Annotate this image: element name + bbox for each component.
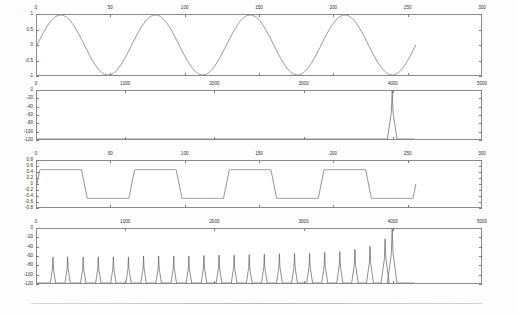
y-axis-tick-label: -80 [6, 121, 33, 126]
x-axis-tick-label: 300 [478, 6, 486, 11]
spectrum-trace [37, 91, 414, 139]
x-tick-mark-bottom [393, 137, 394, 140]
x-tick-mark-top [125, 90, 126, 93]
x-tick-mark-bottom [333, 205, 334, 208]
figure-canvas: 10.50-0.5-1 050100150200250300 0-20-40-6… [0, 0, 518, 315]
x-tick-mark-bottom [125, 137, 126, 140]
x-tick-mark-bottom [408, 205, 409, 208]
x-tick-mark-top [185, 160, 186, 163]
x-tick-mark-top [110, 14, 111, 17]
plot-3-svg [37, 161, 481, 207]
y-tick-mark [36, 202, 39, 203]
y-tick-mark-right [479, 256, 482, 257]
x-tick-mark-bottom [110, 205, 111, 208]
clipped-sine-curve [37, 170, 416, 199]
y-axis-tick-label: -80 [6, 263, 33, 268]
plot-area-2[interactable] [36, 90, 482, 140]
x-axis-tick-label: 5000 [477, 220, 487, 225]
y-axis-tick-label: 0.8 [6, 158, 33, 163]
y-tick-mark-right [479, 228, 482, 229]
x-tick-mark-bottom [393, 281, 394, 284]
x-tick-mark-top [333, 14, 334, 17]
x-axis-tick-label: 250 [404, 152, 412, 157]
x-tick-mark-bottom [110, 73, 111, 76]
y-tick-mark [36, 190, 39, 191]
y-axis-tick-label: -60 [6, 254, 33, 259]
y-axis-tick-label: -60 [6, 113, 33, 118]
y-tick-mark-right [479, 172, 482, 173]
y-tick-mark-right [479, 140, 482, 141]
y-axis-tick-label: 0.6 [6, 164, 33, 169]
y-tick-mark-right [479, 284, 482, 285]
sine-curve [37, 15, 416, 75]
y-tick-mark-right [479, 132, 482, 133]
x-axis-tick-label: 100 [181, 152, 189, 157]
y-axis-tick-label: 0 [6, 43, 33, 48]
y-tick-mark-right [479, 275, 482, 276]
x-tick-mark-top [304, 90, 305, 93]
x-axis-tick-label: 5000 [477, 82, 487, 87]
y-tick-mark [36, 45, 39, 46]
y-tick-mark [36, 107, 39, 108]
x-axis-tick-label: 100 [181, 6, 189, 11]
x-axis-tick-label: 1000 [120, 220, 130, 225]
y-tick-mark-right [479, 190, 482, 191]
footer-rule [30, 303, 482, 304]
y-tick-mark [36, 247, 39, 248]
x-tick-mark-bottom [185, 205, 186, 208]
y-tick-mark-right [479, 184, 482, 185]
y-tick-mark [36, 208, 39, 209]
y-tick-mark [36, 172, 39, 173]
x-tick-mark-bottom [214, 281, 215, 284]
y-tick-mark-right [479, 76, 482, 77]
x-tick-mark-top [408, 14, 409, 17]
y-axis-tick-label: -0.5 [6, 58, 33, 63]
x-axis-tick-label: 1000 [120, 82, 130, 87]
y-tick-mark [36, 123, 39, 124]
y-tick-mark [36, 61, 39, 62]
y-tick-mark-right [479, 208, 482, 209]
y-axis-tick-label: -0.2 [6, 188, 33, 193]
y-tick-mark [36, 160, 39, 161]
y-tick-mark-right [479, 237, 482, 238]
y-tick-mark [36, 14, 39, 15]
x-tick-mark-bottom [259, 205, 260, 208]
y-axis-tick-label: 0 [6, 226, 33, 231]
plot-area-3[interactable] [36, 160, 482, 208]
x-axis-tick-label: 200 [329, 152, 337, 157]
y-tick-mark [36, 76, 39, 77]
y-axis-tick-label: -120 [6, 282, 33, 287]
y-tick-mark [36, 237, 39, 238]
y-axis-tick-label: -20 [6, 96, 33, 101]
y-tick-mark [36, 30, 39, 31]
x-tick-mark-top [125, 228, 126, 231]
y-tick-mark-right [479, 123, 482, 124]
x-axis-tick-label: 0 [35, 152, 38, 157]
plot-area-1[interactable] [36, 14, 482, 76]
y-tick-mark [36, 115, 39, 116]
y-tick-mark-right [479, 166, 482, 167]
x-tick-mark-top [110, 160, 111, 163]
y-axis-tick-label: -0.8 [6, 206, 33, 211]
x-axis-tick-label: 200 [329, 6, 337, 11]
y-tick-mark-right [479, 90, 482, 91]
y-tick-mark [36, 178, 39, 179]
y-tick-mark [36, 196, 39, 197]
y-tick-mark [36, 275, 39, 276]
plot-area-4[interactable] [36, 228, 482, 284]
y-tick-mark [36, 265, 39, 266]
y-axis-tick-label: -40 [6, 244, 33, 249]
y-axis-tick-label: -1 [6, 74, 33, 79]
y-axis-tick-label: 1 [6, 12, 33, 17]
y-tick-mark-right [479, 107, 482, 108]
y-axis-tick-label: -100 [6, 272, 33, 277]
x-axis-tick-label: 4000 [388, 82, 398, 87]
x-tick-mark-top [259, 160, 260, 163]
x-tick-mark-bottom [304, 281, 305, 284]
y-axis-tick-label: 0.5 [6, 27, 33, 32]
y-axis-tick-label: 0.4 [6, 170, 33, 175]
x-tick-mark-top [259, 14, 260, 17]
x-tick-mark-top [393, 228, 394, 231]
y-axis-tick-label: -0.6 [6, 200, 33, 205]
y-tick-mark [36, 98, 39, 99]
